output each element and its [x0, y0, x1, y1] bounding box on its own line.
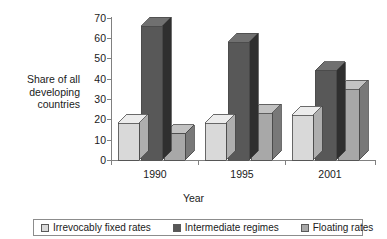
legend-label: Floating rates [313, 222, 374, 233]
x-axis-line [111, 160, 376, 161]
bar-chart-figure: Share of all developing countries 70 60 … [0, 0, 387, 239]
bar-2001-series-1 [292, 106, 322, 160]
legend-swatch-icon [41, 224, 49, 232]
bar-1995-series-2 [228, 33, 258, 160]
x-tick-mark-2 [285, 160, 286, 165]
bar-2001-series-2 [315, 62, 345, 160]
y-axis-line [111, 17, 112, 161]
legend-swatch-icon [173, 224, 181, 232]
bar-1990-series-2 [141, 17, 171, 160]
bar-1990-series-3 [164, 125, 194, 160]
chart-legend: Irrevocably fixed rates Intermediate reg… [33, 219, 363, 236]
x-tick-label-2001: 2001 [295, 169, 365, 180]
bar-1990-series-1 [118, 114, 148, 160]
y-axis-title: Share of all developing countries [4, 73, 80, 111]
bar-1995-series-1 [205, 114, 235, 160]
y-tick-label-30: 30 [84, 94, 106, 104]
y-tick-label-60: 60 [84, 33, 106, 43]
y-tick-label-50: 50 [84, 53, 106, 63]
legend-item-irrevocably-fixed-rates[interactable]: Irrevocably fixed rates [41, 222, 151, 233]
y-tick-label-0: 0 [84, 155, 106, 165]
legend-swatch-icon [301, 224, 309, 232]
y-tick-label-20: 20 [84, 114, 106, 124]
bar-2001-series-3 [338, 80, 368, 160]
legend-label: Irrevocably fixed rates [53, 222, 151, 233]
y-tick-label-70: 70 [84, 13, 106, 23]
x-tick-label-1995: 1995 [207, 169, 277, 180]
legend-label: Intermediate regimes [185, 222, 279, 233]
y-tick-label-40: 40 [84, 74, 106, 84]
x-tick-mark-end [375, 160, 376, 165]
x-tick-mark-1 [198, 160, 199, 165]
bar-1995-series-3 [251, 104, 281, 160]
x-tick-label-1990: 1990 [120, 169, 190, 180]
x-tick-mark-start [111, 160, 112, 165]
y-tick-label-10: 10 [84, 135, 106, 145]
legend-item-floating-rates[interactable]: Floating rates [301, 222, 374, 233]
x-axis-title: Year [0, 192, 387, 204]
legend-item-intermediate-regimes[interactable]: Intermediate regimes [173, 222, 279, 233]
